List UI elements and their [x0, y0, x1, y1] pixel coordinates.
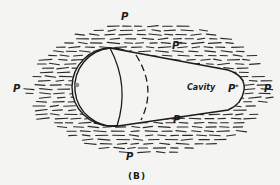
- cavity-label: Cavity: [187, 84, 215, 92]
- figure-caption: (B): [128, 172, 146, 181]
- cavity-diagram: P P P P P* P* P* Cavity (B): [0, 0, 280, 185]
- cavity-pressure-label-right: P*: [228, 84, 238, 94]
- cavity-pressure-label-top: P*: [172, 41, 182, 51]
- contact-dot: [75, 83, 80, 88]
- cavity-pressure-label-bottom: P*: [173, 115, 183, 125]
- pressure-label-right: P: [264, 84, 271, 94]
- pressure-label-bottom: P: [126, 152, 133, 162]
- pressure-label-top: P: [121, 12, 128, 22]
- pressure-label-left: P: [13, 84, 20, 94]
